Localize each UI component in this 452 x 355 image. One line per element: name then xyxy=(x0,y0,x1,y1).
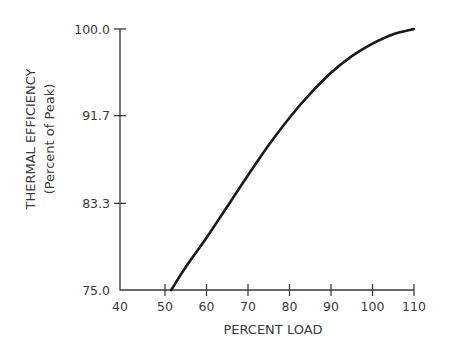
efficiency-chart: THERMAL EFFICIENCY (Percent of Peak) 75.… xyxy=(0,0,452,355)
x-tick-label: 50 xyxy=(157,299,173,314)
x-axis-ticks: 405060708090100110 xyxy=(112,284,426,314)
x-tick-label: 90 xyxy=(323,299,339,314)
y-tick-label: 91.7 xyxy=(82,108,110,123)
x-tick-label: 110 xyxy=(402,299,426,314)
axes xyxy=(120,29,414,290)
y-axis-title: THERMAL EFFICIENCY (Percent of Peak) xyxy=(23,68,57,210)
y-tick-label: 75.0 xyxy=(82,283,110,298)
x-tick-label: 80 xyxy=(282,299,298,314)
y-axis-title-sub: (Percent of Peak) xyxy=(42,84,57,195)
y-axis-title-main: THERMAL EFFICIENCY xyxy=(23,68,38,210)
axis-lines xyxy=(120,29,414,290)
x-tick-label: 40 xyxy=(112,299,128,314)
x-tick-label: 70 xyxy=(240,299,256,314)
data-series xyxy=(171,29,414,290)
y-axis-ticks: 75.083.391.7100.0 xyxy=(74,22,126,298)
efficiency-curve xyxy=(171,29,414,290)
y-tick-label: 100.0 xyxy=(74,22,110,37)
x-axis-title: PERCENT LOAD xyxy=(223,322,322,337)
x-tick-label: 60 xyxy=(199,299,215,314)
y-tick-label: 83.3 xyxy=(82,196,110,211)
x-tick-label: 100 xyxy=(361,299,385,314)
